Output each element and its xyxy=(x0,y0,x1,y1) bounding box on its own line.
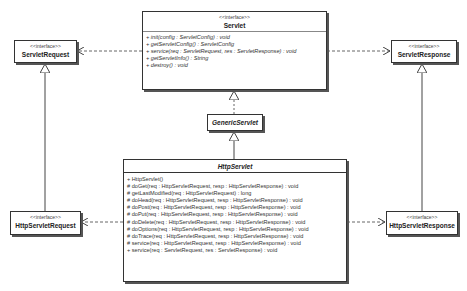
class-header: <<interface>> Servlet xyxy=(143,12,326,31)
class-genericservlet[interactable]: GenericServlet xyxy=(207,114,263,131)
class-name: Servlet xyxy=(145,21,324,30)
operations-compartment: + HttpServlet() # doGet(req : HttpServle… xyxy=(124,172,346,256)
operation: # getLastModified(req : HttpServletReque… xyxy=(127,190,343,197)
class-name: ServletResponse xyxy=(394,50,454,59)
class-name: GenericServlet xyxy=(210,118,260,127)
operation: + HttpServlet() xyxy=(127,176,343,183)
stereotype-label: <<interface>> xyxy=(394,43,454,50)
class-name: HttpServletResponse xyxy=(389,221,455,230)
operation: # doOptions(req : HttpServletRequest, re… xyxy=(127,226,343,233)
stereotype-label: <<interface>> xyxy=(145,14,324,21)
operation: + service(req : ServletRequest, res : Se… xyxy=(146,48,323,55)
class-httpservletresponse[interactable]: <<interface>> HttpServletResponse xyxy=(386,211,458,235)
class-header: GenericServlet xyxy=(208,115,262,128)
class-header: <<interface>> ServletRequest xyxy=(15,41,76,60)
operation: # doPost(req : HttpServletRequest, resp … xyxy=(127,204,343,211)
class-servlet[interactable]: <<interface>> Servlet + init(config : Se… xyxy=(142,11,327,90)
class-servletresponse[interactable]: <<interface>> ServletResponse xyxy=(391,40,457,63)
operation: + getServletInfo() : String xyxy=(146,55,323,62)
operation: # service(req : HttpServletRequest, resp… xyxy=(127,240,343,247)
class-servletrequest[interactable]: <<interface>> ServletRequest xyxy=(14,40,77,63)
class-httpservlet[interactable]: HttpServlet + HttpServlet() # doGet(req … xyxy=(123,159,347,282)
operation: + destroy() : void xyxy=(146,62,323,69)
class-httpservletrequest[interactable]: <<interface>> HttpServletRequest xyxy=(10,211,81,235)
class-name: ServletRequest xyxy=(17,50,74,59)
stereotype-label: <<interface>> xyxy=(13,214,78,221)
operation: + init(config : ServletConfig) : void xyxy=(146,34,323,41)
operation: # doGet(req : HttpServletRequest, resp :… xyxy=(127,183,343,190)
class-name: HttpServletRequest xyxy=(13,221,78,230)
operation: # doTrace(req : HttpServletRequest, resp… xyxy=(127,233,343,240)
operation: # doHead(req : HttpServletRequest, resp … xyxy=(127,197,343,204)
operations-compartment: + init(config : ServletConfig) : void + … xyxy=(143,31,326,71)
class-name: HttpServlet xyxy=(126,162,344,171)
stereotype-label: <<interface>> xyxy=(17,43,74,50)
operation: # doPut(req : HttpServletRequest, resp :… xyxy=(127,211,343,218)
stereotype-label: <<interface>> xyxy=(389,214,455,221)
operation: + getServletConfig() : ServletConfig xyxy=(146,41,323,48)
class-header: <<interface>> HttpServletResponse xyxy=(387,212,457,231)
class-header: <<interface>> ServletResponse xyxy=(392,41,456,60)
operation: # doDelete(req : HttpServletRequest, res… xyxy=(127,219,343,226)
class-header: HttpServlet xyxy=(124,160,346,172)
class-header: <<interface>> HttpServletRequest xyxy=(11,212,80,231)
operation: + service(req : ServletRequest, res : Se… xyxy=(127,247,343,254)
